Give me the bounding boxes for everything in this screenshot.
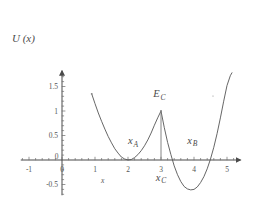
plot-canvas: -10123451.510.50-0.5 xAECxBxC U (x) x xyxy=(0,0,256,223)
x-tick-label: 4 xyxy=(192,165,196,174)
y-axis-title: U (x) xyxy=(12,32,35,45)
annotation-subscript: C xyxy=(161,176,167,185)
annotation-subscript: A xyxy=(132,140,138,149)
annotation-subscript: B xyxy=(193,139,198,148)
annotation-base: x xyxy=(127,135,133,146)
annotation-subscript: C xyxy=(160,93,166,102)
potential-curve xyxy=(161,73,232,190)
speck-dot xyxy=(212,95,213,96)
x-tick-label: 1 xyxy=(93,165,97,174)
y-tick-label: -0.5 xyxy=(46,180,58,189)
annotation-base: x xyxy=(186,135,192,146)
x-tick-label: 2 xyxy=(126,165,130,174)
x-tick-label: -1 xyxy=(26,165,32,174)
x-tick-label: 0 xyxy=(60,165,64,174)
annotation-base: x xyxy=(155,172,161,183)
y-tick-label: 1.5 xyxy=(49,82,59,91)
cusp-peak-marker xyxy=(160,110,162,112)
y-tick-label: 1 xyxy=(54,107,58,116)
potential-energy-figure: -10123451.510.50-0.5 xAECxBxC U (x) x xyxy=(0,0,256,223)
annotation-xA: xA xyxy=(127,135,138,149)
data-point-markers xyxy=(91,93,162,112)
annotation-EC: EC xyxy=(152,88,166,102)
left-curve-endpoint xyxy=(91,93,93,95)
annotation-base: E xyxy=(152,88,160,99)
annotation-xB: xB xyxy=(186,135,197,149)
x-axis-title: x xyxy=(100,176,105,185)
y-tick-label: 0 xyxy=(55,152,59,161)
x-tick-label: 5 xyxy=(225,165,229,174)
y-tick-label: 0.5 xyxy=(49,131,59,140)
potential-curve xyxy=(92,94,161,160)
